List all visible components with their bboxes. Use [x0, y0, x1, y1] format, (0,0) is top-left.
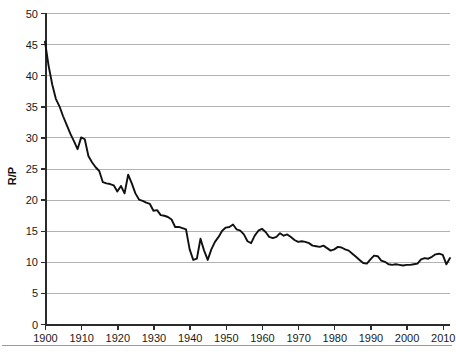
y-axis-title: R/P [6, 167, 18, 185]
y-tick-label: 35 [26, 101, 38, 113]
figure-caption [4, 348, 304, 356]
x-tick-label: 1920 [106, 332, 130, 344]
x-tick-label: 2010 [431, 332, 455, 344]
data-series-line [45, 42, 450, 266]
y-tick-label: 20 [26, 194, 38, 206]
x-tick-label: 1940 [178, 332, 202, 344]
x-tick-label: 1980 [323, 332, 347, 344]
y-tick-label: 40 [26, 70, 38, 82]
chart-figure: 0510152025303540455019001910192019301940… [0, 0, 456, 356]
x-tick-label: 1910 [69, 332, 93, 344]
y-tick-label: 5 [32, 287, 38, 299]
gridlines [45, 14, 450, 294]
line-chart-plot: 0510152025303540455019001910192019301940… [0, 0, 456, 356]
y-tick-label: 15 [26, 225, 38, 237]
x-tick-label: 1950 [214, 332, 238, 344]
x-tick-label: 1990 [359, 332, 383, 344]
x-tick-label: 1960 [250, 332, 274, 344]
y-tick-label: 0 [32, 319, 38, 331]
x-tick-label: 1930 [142, 332, 166, 344]
caption-divider [2, 345, 452, 346]
y-tick-label: 45 [26, 39, 38, 51]
y-tick-label: 30 [26, 132, 38, 144]
x-tick-label: 2000 [395, 332, 419, 344]
x-axis: 1900191019201930194019501960197019801990… [33, 325, 455, 345]
x-tick-label: 1900 [33, 332, 57, 344]
y-axis: 05101520253035404550 [26, 8, 46, 331]
y-tick-label: 50 [26, 8, 38, 20]
y-tick-label: 25 [26, 163, 38, 175]
y-tick-label: 10 [26, 256, 38, 268]
x-tick-label: 1970 [286, 332, 310, 344]
